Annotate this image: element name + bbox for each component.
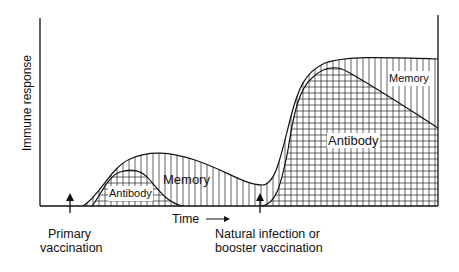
primary-vaccination-label-line1: Primary (48, 227, 91, 242)
antibody-label-secondary: Antibody (327, 133, 380, 148)
primary-vaccination-label-line2: vaccination (40, 241, 103, 256)
booster-label-line1: Natural infection or (215, 227, 320, 242)
memory-label-secondary: Memory (388, 71, 430, 86)
antibody-label-primary: Antibody (108, 186, 153, 201)
x-axis-label: Time (172, 212, 199, 227)
booster-label-line2: booster vaccination (215, 241, 323, 256)
primary-arrow-icon (66, 193, 74, 213)
time-arrow-icon (206, 216, 230, 222)
memory-label-primary: Memory (163, 172, 210, 187)
y-axis-label: Immune response (20, 48, 34, 158)
